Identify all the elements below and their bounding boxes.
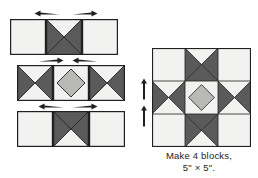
block-cell-r1c3 [218,48,251,81]
hourglass-middle-right [89,65,125,101]
block-cell-r2c2 [185,81,218,114]
hourglass-bottom-center [53,111,89,147]
light-square-top-right [82,19,118,55]
finished-ohio-star-block [152,48,251,147]
caption-line-1: Make 4 blocks, [140,150,258,162]
block-cell-r3c2 [185,114,218,147]
press-arrow-bottom-right [72,103,98,110]
block-caption: Make 4 blocks, 5" × 5". [140,150,258,174]
caption-line-2: 5" × 5". [140,162,258,174]
block-cell-r3c1 [152,114,185,147]
hourglass-top-center [46,19,82,55]
square-in-square-center [53,65,89,101]
press-arrow-bottom-left [38,103,64,110]
block-cell-r1c1 [152,48,185,81]
press-arrow-block-lower [140,105,148,127]
press-arrow-block-upper [140,78,148,100]
light-square-bottom-right [89,111,125,147]
press-arrow-middle-right [72,57,98,64]
block-cell-r3c3 [218,114,251,147]
light-square-bottom-left [17,111,53,147]
quilt-assembly-diagram: Make 4 blocks, 5" × 5". [0,0,258,178]
light-square-top-left [10,19,46,55]
block-cell-r1c2 [185,48,218,81]
press-arrow-top-left [34,10,60,17]
block-cell-r2c3 [218,81,251,114]
press-arrow-middle-left [38,57,64,64]
hourglass-middle-left [17,65,53,101]
press-arrow-top-right [72,10,98,17]
block-cell-r2c1 [152,81,185,114]
